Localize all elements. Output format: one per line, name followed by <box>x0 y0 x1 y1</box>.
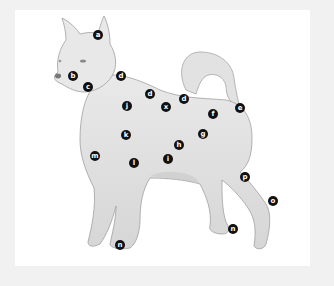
dog-illustration <box>0 0 334 286</box>
label-marker-j: j <box>122 101 132 111</box>
label-marker-n: n <box>228 224 238 234</box>
label-marker-c: c <box>83 82 93 92</box>
label-marker-k: k <box>121 130 131 140</box>
label-marker-l: l <box>129 158 139 168</box>
label-marker-e: e <box>235 103 245 113</box>
dog-body <box>80 75 270 249</box>
label-marker-p: p <box>240 172 250 182</box>
label-marker-x: x <box>161 102 171 112</box>
label-marker-f: f <box>208 109 218 119</box>
label-marker-n: n <box>115 240 125 250</box>
label-marker-b: b <box>68 71 78 81</box>
label-marker-a: a <box>93 30 103 40</box>
label-marker-m: m <box>90 151 100 161</box>
label-marker-g: g <box>198 129 208 139</box>
dog-nose <box>55 74 61 79</box>
label-marker-i: i <box>163 154 173 164</box>
label-marker-d: d <box>116 71 126 81</box>
label-marker-d: d <box>145 89 155 99</box>
dog-eye <box>59 60 62 62</box>
label-marker-h: h <box>174 140 184 150</box>
dog-eye <box>80 59 86 62</box>
label-marker-o: o <box>268 196 278 206</box>
label-marker-d: d <box>179 94 189 104</box>
dog-head <box>54 16 115 92</box>
